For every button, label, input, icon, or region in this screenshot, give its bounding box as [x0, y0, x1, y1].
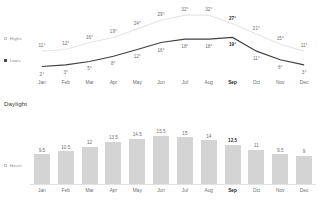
legend-label-lows: Lows	[10, 58, 21, 63]
daylight-bar[interactable]	[248, 150, 264, 184]
daylight-value-label: 12	[87, 140, 92, 145]
highs-value-label: 19°	[110, 29, 117, 34]
highs-value-label: 32°	[181, 7, 188, 12]
daylight-bar[interactable]	[177, 137, 193, 184]
weather-chart-panel: Highs Lows 11°12°16°19°24°29°32°32°27°21…	[0, 0, 320, 203]
legend-label-highs: Highs	[10, 36, 22, 41]
daylight-value-label: 9.5	[277, 148, 283, 153]
month-label-may[interactable]: May	[133, 80, 142, 85]
month-label-jun[interactable]: Jun	[157, 80, 165, 85]
month-label-may[interactable]: May	[133, 188, 142, 193]
daylight-value-label: 9.5	[39, 148, 45, 153]
month-label-jul[interactable]: Jul	[182, 80, 188, 85]
daylight-bar[interactable]	[34, 154, 50, 184]
daylight-baseline	[30, 184, 316, 185]
daylight-value-label: 12.5	[228, 138, 237, 143]
daylight-bar[interactable]	[225, 145, 241, 184]
month-label-jun[interactable]: Jun	[157, 188, 165, 193]
month-label-jan[interactable]: Jan	[38, 80, 46, 85]
daylight-value-label: 14	[206, 134, 211, 139]
month-label-feb[interactable]: Feb	[62, 188, 70, 193]
lows-value-label: 5°	[87, 66, 92, 71]
temperature-month-axis: JanFebMarAprMayJunJulAugSepOctNovDec	[30, 80, 316, 90]
month-label-aug[interactable]: Aug	[204, 188, 213, 193]
highs-value-label: 15°	[277, 36, 284, 41]
daylight-value-label: 10.5	[61, 145, 70, 150]
month-label-oct[interactable]: Oct	[253, 188, 260, 193]
lows-value-label: 11°	[253, 56, 260, 61]
lows-value-label: 12°	[134, 54, 141, 59]
lows-value-label: 19°	[229, 42, 236, 47]
month-label-mar[interactable]: Mar	[85, 80, 93, 85]
month-label-sep[interactable]: Sep	[228, 80, 237, 85]
lows-value-label: 18°	[181, 44, 188, 49]
highs-value-label: 32°	[205, 7, 212, 12]
highs-swatch-icon	[4, 37, 7, 40]
legend-item-hours: Hours	[4, 163, 22, 168]
highs-value-label: 29°	[157, 12, 164, 17]
daylight-bar[interactable]	[82, 147, 98, 185]
temperature-chart: Highs Lows 11°12°16°19°24°29°32°32°27°21…	[0, 0, 320, 92]
month-label-apr[interactable]: Apr	[110, 80, 117, 85]
lows-value-label: 2°	[40, 71, 45, 76]
lows-line	[42, 37, 304, 66]
month-label-oct[interactable]: Oct	[253, 80, 260, 85]
month-label-dec[interactable]: Dec	[300, 188, 309, 193]
highs-line	[42, 15, 304, 51]
month-label-feb[interactable]: Feb	[62, 80, 70, 85]
daylight-month-axis: JanFebMarAprMayJunJulAugSepOctNovDec	[30, 186, 316, 196]
daylight-bar[interactable]	[129, 139, 145, 184]
month-label-aug[interactable]: Aug	[204, 80, 213, 85]
month-label-nov[interactable]: Nov	[276, 188, 285, 193]
daylight-bar[interactable]	[272, 154, 288, 184]
highs-value-label: 21°	[253, 26, 260, 31]
daylight-chart: 9.510.51213.514.515.5151412.5119.59 JanF…	[30, 118, 316, 196]
daylight-value-label: 15.5	[157, 129, 166, 134]
daylight-value-label: 13.5	[109, 135, 118, 140]
highs-value-label: 11°	[38, 43, 45, 48]
legend-item-highs: Highs	[4, 36, 22, 41]
highs-value-label: 12°	[62, 41, 69, 46]
lows-swatch-icon	[4, 59, 7, 62]
month-label-dec[interactable]: Dec	[300, 80, 309, 85]
daylight-value-label: 9	[303, 149, 306, 154]
highs-value-label: 16°	[86, 34, 93, 39]
daylight-bar[interactable]	[58, 151, 74, 184]
month-label-nov[interactable]: Nov	[276, 80, 285, 85]
month-label-mar[interactable]: Mar	[85, 188, 93, 193]
highs-value-label: 24°	[134, 20, 141, 25]
month-label-sep[interactable]: Sep	[228, 188, 237, 193]
month-label-jan[interactable]: Jan	[38, 188, 46, 193]
hours-swatch-icon	[4, 164, 7, 167]
temperature-plot-area: 11°12°16°19°24°29°32°32°27°21°15°11° 2°3…	[30, 0, 316, 92]
daylight-bar[interactable]	[153, 136, 169, 184]
legend-item-lows: Lows	[4, 58, 20, 63]
daylight-bar[interactable]	[201, 140, 217, 184]
highs-value-label: 27°	[229, 15, 236, 20]
month-label-jul[interactable]: Jul	[182, 188, 188, 193]
lows-value-label: 3°	[302, 69, 307, 74]
month-label-apr[interactable]: Apr	[110, 188, 117, 193]
lows-value-label: 3°	[63, 69, 68, 74]
daylight-value-label: 11	[254, 143, 259, 148]
legend-label-hours: Hours	[10, 163, 22, 168]
daylight-value-label: 15	[182, 131, 187, 136]
daylight-bar[interactable]	[105, 142, 121, 184]
temperature-lines-svg	[30, 0, 316, 78]
lows-value-label: 8°	[111, 61, 116, 66]
daylight-bar[interactable]	[296, 156, 312, 184]
daylight-value-label: 14.5	[133, 132, 142, 137]
lows-value-label: 18°	[205, 44, 212, 49]
highs-value-label: 11°	[301, 43, 308, 48]
lows-value-label: 16°	[157, 47, 164, 52]
daylight-section-title: Daylight	[4, 100, 27, 107]
lows-value-label: 6°	[278, 64, 283, 69]
